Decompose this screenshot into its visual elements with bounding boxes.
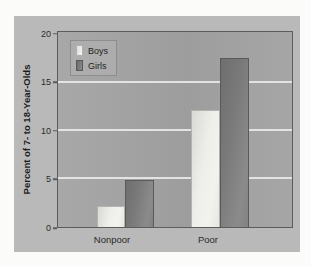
x-tick-label-nonpoor: Nonpoor [94, 234, 130, 245]
legend-item-girls: Girls [76, 60, 108, 71]
chart-legend: Boys Girls [70, 40, 117, 76]
y-tick-label-10: 10 [41, 126, 51, 136]
x-tick-label-poor: Poor [198, 234, 218, 245]
y-tick-label-15: 15 [41, 77, 51, 87]
y-axis-label: Percent of 7- to 18-Year-Olds [20, 31, 34, 228]
legend-label-boys: Boys [88, 46, 108, 56]
plot-area: Boys Girls [57, 31, 293, 228]
gridline-5 [58, 177, 292, 179]
bar-poor-boys [191, 110, 220, 227]
chart-figure: Percent of 7- to 18-Year-Olds Boys Girls [14, 16, 300, 252]
bar-nonpoor-girls [125, 180, 154, 227]
bar-nonpoor-boys [97, 206, 126, 227]
legend-swatch-boys-icon [76, 45, 83, 56]
legend-swatch-girls-icon [76, 60, 83, 71]
y-tick-label-0: 0 [46, 223, 51, 233]
gridline-10 [58, 129, 292, 131]
y-tick-label-20: 20 [41, 29, 51, 39]
y-tick-label-5: 5 [46, 174, 51, 184]
legend-item-boys: Boys [76, 45, 108, 56]
legend-label-girls: Girls [88, 61, 107, 71]
y-axis-label-text: Percent of 7- to 18-Year-Olds [22, 65, 33, 195]
bar-poor-girls [220, 58, 249, 227]
gridline-15 [58, 81, 292, 83]
